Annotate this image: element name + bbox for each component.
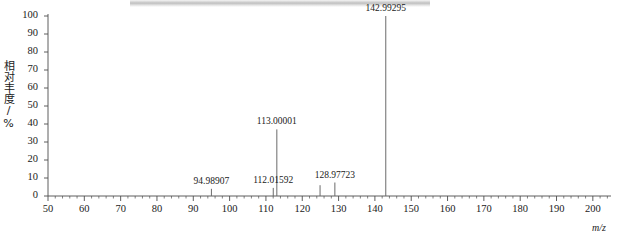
x-axis-tick-label: 130 (324, 203, 354, 214)
x-axis-tick-label: 110 (251, 203, 281, 214)
y-axis-tick-label: 50 (12, 99, 38, 110)
y-axis-tick-label: 100 (12, 9, 38, 20)
y-axis-tick-label: 0 (12, 189, 38, 200)
x-axis-tick-label: 190 (542, 203, 572, 214)
mass-spectrum-figure: 相对丰度/% m/z 01020304050607080901005060708… (0, 0, 631, 238)
y-axis-tick-label: 90 (12, 27, 38, 38)
x-axis-tick-label: 70 (106, 203, 136, 214)
y-axis-tick-label: 30 (12, 135, 38, 146)
x-axis-tick-label: 170 (469, 203, 499, 214)
peak-label: 113.00001 (253, 116, 300, 126)
y-axis-tick-label: 70 (12, 63, 38, 74)
x-axis-tick-label: 140 (360, 203, 390, 214)
y-axis-tick-label: 10 (12, 171, 38, 182)
y-axis-tick-label: 60 (12, 81, 38, 92)
y-axis-tick-label: 40 (12, 117, 38, 128)
x-axis-tick-label: 100 (215, 203, 245, 214)
x-axis-tick-label: 120 (287, 203, 317, 214)
y-axis-tick-label: 20 (12, 153, 38, 164)
x-axis-tick-label: 50 (33, 203, 63, 214)
x-axis-tick-label: 150 (396, 203, 426, 214)
peak-label: 112.01592 (250, 175, 297, 185)
x-axis-tick-label: 60 (69, 203, 99, 214)
peak-label: 94.98907 (191, 176, 233, 186)
y-axis-tick-label: 80 (12, 45, 38, 56)
x-axis-tick-label: 80 (142, 203, 172, 214)
x-axis-title: m/z (592, 222, 606, 233)
x-axis-tick-label: 180 (505, 203, 535, 214)
x-axis-tick-label: 200 (578, 203, 608, 214)
x-axis-tick-label: 90 (178, 203, 208, 214)
peak-label: 128.97723 (311, 170, 358, 180)
peak-label: 142.99295 (362, 3, 409, 13)
x-axis-tick-label: 160 (433, 203, 463, 214)
